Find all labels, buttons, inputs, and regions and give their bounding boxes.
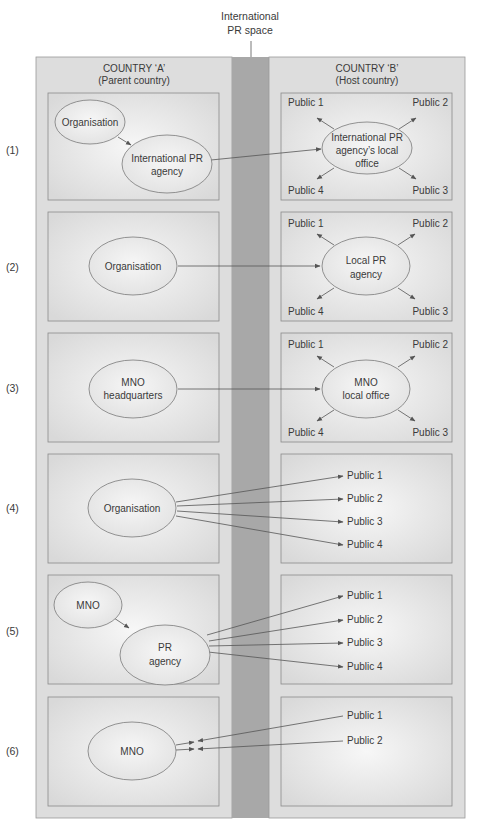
node-international-pr-agency <box>122 135 212 193</box>
public-label: Public 3 <box>412 427 448 438</box>
row-label-5: (5) <box>6 625 19 637</box>
node-label: MNO <box>121 377 145 388</box>
node-label: MNO <box>120 746 144 757</box>
public-label: Public 3 <box>412 185 448 196</box>
row-label-3: (3) <box>6 382 19 394</box>
node-mno-local-office <box>322 360 410 418</box>
country-a-title: COUNTRY ‘A’ <box>103 63 165 74</box>
node-local-pr-agency <box>322 237 410 295</box>
public-label: Public 4 <box>288 185 324 196</box>
node-label: Local PR <box>346 255 387 266</box>
row-label-6: (6) <box>6 745 19 757</box>
international-pr-space-strip <box>232 57 269 818</box>
public-label: Public 1 <box>288 218 324 229</box>
row-labels: (1) (2) (3) (4) (5) (6) <box>6 144 19 757</box>
row-label-1: (1) <box>6 144 19 156</box>
public-label: Public 1 <box>288 97 324 108</box>
node-pr-agency-row5 <box>120 625 210 685</box>
public-label: Public 2 <box>412 339 448 350</box>
international-pr-diagram: International PR space COUNTRY ‘A’ (Pare… <box>0 0 481 832</box>
node-label: Organisation <box>62 117 119 128</box>
public-label: Public 3 <box>412 306 448 317</box>
public-label: Public 2 <box>347 493 383 504</box>
public-label: Public 3 <box>347 516 383 527</box>
space-label-line1: International <box>221 10 279 22</box>
node-label: headquarters <box>104 390 163 401</box>
country-a-subtitle: (Parent country) <box>98 75 170 86</box>
public-label: Public 4 <box>288 427 324 438</box>
space-label-line2: PR space <box>227 24 273 36</box>
public-label: Public 2 <box>347 614 383 625</box>
public-label: Public 1 <box>347 470 383 481</box>
public-label: Public 4 <box>288 306 324 317</box>
node-label: International PR <box>331 132 403 143</box>
public-label: Public 2 <box>412 97 448 108</box>
public-label: Public 1 <box>347 710 383 721</box>
node-label: PR <box>158 642 172 653</box>
public-label: Public 1 <box>288 339 324 350</box>
node-label: MNO <box>76 600 100 611</box>
row-label-4: (4) <box>6 502 19 514</box>
node-label: agency <box>350 269 382 280</box>
node-label: agency <box>149 656 181 667</box>
node-label: Organisation <box>104 503 161 514</box>
public-label: Public 3 <box>347 637 383 648</box>
country-b-title: COUNTRY ‘B’ <box>336 63 399 74</box>
row-label-2: (2) <box>6 261 19 273</box>
node-label: agency’s local <box>336 145 399 156</box>
node-label: agency <box>151 166 183 177</box>
public-label: Public 4 <box>347 539 383 550</box>
public-label: Public 2 <box>412 218 448 229</box>
public-label: Public 4 <box>347 661 383 672</box>
node-label: local office <box>342 390 390 401</box>
public-label: Public 2 <box>347 735 383 746</box>
node-label: International PR <box>131 153 203 164</box>
country-b-subtitle: (Host country) <box>336 75 399 86</box>
node-label: Organisation <box>105 261 162 272</box>
public-label: Public 1 <box>347 590 383 601</box>
node-mno-headquarters <box>89 360 177 418</box>
node-label: MNO <box>354 377 378 388</box>
node-label: office <box>355 158 379 169</box>
